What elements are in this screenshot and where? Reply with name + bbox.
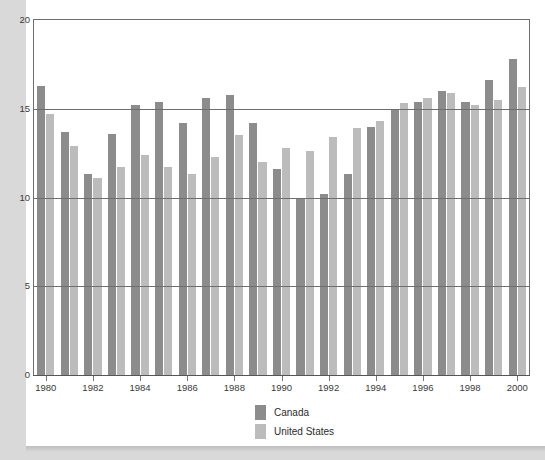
y-tick-label-20: 20: [6, 15, 30, 25]
x-tick-label-1992: 1992: [307, 382, 351, 393]
x-tick-1996: [423, 376, 424, 381]
bar-united-states-1987: [211, 157, 219, 375]
legend-item-canada[interactable]: Canada: [255, 403, 435, 422]
bar-united-states-1997: [447, 93, 455, 375]
bar-canada-1986: [179, 123, 187, 375]
bar-canada-1987: [202, 98, 210, 375]
x-tick-1992: [329, 376, 330, 381]
gridline-15: [34, 109, 529, 110]
card-shadow: [26, 446, 545, 452]
gridline-10: [34, 198, 529, 199]
bar-united-states-1999: [494, 100, 502, 375]
bar-united-states-1984: [141, 155, 149, 375]
bar-canada-1983: [108, 134, 116, 375]
bar-united-states-1990: [282, 148, 290, 375]
bar-united-states-1988: [235, 135, 243, 375]
bar-canada-1997: [438, 91, 446, 375]
x-tick-label-1994: 1994: [354, 382, 398, 393]
y-tick-label-0: 0: [6, 370, 30, 380]
x-tick-1994: [376, 376, 377, 381]
bar-united-states-1989: [258, 162, 266, 375]
bar-united-states-1981: [70, 146, 78, 375]
chart-legend: CanadaUnited States: [255, 403, 435, 441]
bar-canada-1989: [249, 123, 257, 375]
x-tick-label-1996: 1996: [401, 382, 445, 393]
legend-item-united-states[interactable]: United States: [255, 422, 435, 441]
bar-canada-1995: [391, 109, 399, 375]
bar-canada-1980: [37, 86, 45, 375]
x-tick-1986: [187, 376, 188, 381]
x-tick-label-1982: 1982: [71, 382, 115, 393]
bar-canada-1984: [131, 105, 139, 375]
x-tick-label-1984: 1984: [118, 382, 162, 393]
bar-canada-1988: [226, 95, 234, 375]
x-tick-label-1990: 1990: [260, 382, 304, 393]
x-tick-label-2000: 2000: [495, 382, 539, 393]
bar-united-states-1998: [471, 105, 479, 375]
legend-label: Canada: [274, 407, 309, 418]
x-tick-label-1998: 1998: [448, 382, 492, 393]
bar-united-states-1982: [93, 178, 101, 375]
bar-canada-1998: [461, 102, 469, 375]
x-tick-1998: [470, 376, 471, 381]
x-tick-label-1986: 1986: [165, 382, 209, 393]
bar-canada-2000: [509, 59, 517, 375]
bar-canada-1993: [344, 174, 352, 375]
x-tick-label-1980: 1980: [24, 382, 68, 393]
bar-canada-1999: [485, 80, 493, 375]
bar-canada-1982: [84, 174, 92, 375]
x-tick-label-1988: 1988: [212, 382, 256, 393]
x-tick-1984: [140, 376, 141, 381]
x-tick-1988: [234, 376, 235, 381]
bar-canada-1981: [61, 132, 69, 375]
x-tick-1990: [282, 376, 283, 381]
y-tick-label-10: 10: [6, 193, 30, 203]
bar-united-states-1995: [400, 103, 408, 375]
bar-united-states-2000: [518, 87, 526, 375]
bar-united-states-1980: [46, 114, 54, 375]
y-tick-label-5: 5: [6, 281, 30, 291]
bar-canada-1990: [273, 169, 281, 375]
plot-area: [34, 20, 529, 375]
bar-united-states-1994: [376, 121, 384, 375]
bar-united-states-1986: [188, 174, 196, 375]
bar-canada-1996: [414, 102, 422, 375]
x-tick-1982: [93, 376, 94, 381]
bar-canada-1994: [367, 127, 375, 376]
legend-swatch-icon: [255, 424, 266, 439]
chart-page: 05101520 1980198219841986198819901992199…: [0, 0, 545, 460]
x-tick-1980: [46, 376, 47, 381]
bar-canada-1985: [155, 102, 163, 375]
bar-united-states-1991: [306, 151, 314, 375]
legend-label: United States: [274, 426, 334, 437]
y-axis: 05101520: [0, 0, 30, 400]
legend-swatch-icon: [255, 405, 266, 420]
y-tick-label-15: 15: [6, 104, 30, 114]
x-tick-2000: [517, 376, 518, 381]
bar-united-states-1993: [353, 128, 361, 375]
bar-canada-1992: [320, 194, 328, 375]
bar-united-states-1992: [329, 137, 337, 375]
bar-united-states-1996: [423, 98, 431, 375]
gridline-5: [34, 286, 529, 287]
